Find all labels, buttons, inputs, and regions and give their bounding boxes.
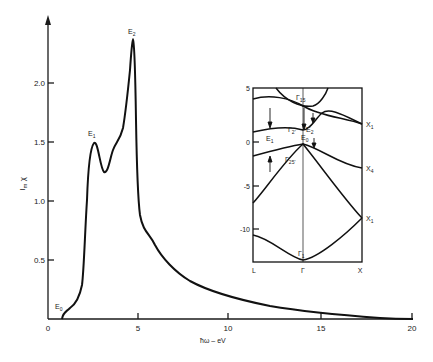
x-tick-10: 10 (224, 324, 233, 333)
inset-label-x1-top: X1 (366, 121, 374, 130)
y-tick-0.5: 0.5 (34, 256, 46, 265)
inset-x-tick-X: X (358, 267, 363, 274)
y-tick-labels: 0.5 1.0 1.5 2.0 (34, 79, 46, 265)
svg-text:Im χ: Im χ (18, 176, 28, 190)
peak-e1-label: E1 (88, 130, 96, 139)
x-tick-0: 0 (46, 324, 51, 333)
y-axis-arrow-icon (45, 15, 51, 25)
inset-x-tick-L: L (252, 267, 256, 274)
inset-x-tick-Gamma: Γ (301, 267, 305, 274)
x-tick-labels: 0 5 10 15 20 (46, 324, 417, 333)
y-axis-label: Im χ (18, 176, 28, 190)
inset-y-tick-5: 5 (246, 85, 250, 92)
y-tick-2.0: 2.0 (34, 79, 46, 88)
y-tick-1.0: 1.0 (34, 197, 46, 206)
x-axis-label: ħω – eV (200, 337, 226, 344)
x-tick-20: 20 (408, 324, 417, 333)
inset-label-x1-bottom: X1 (366, 215, 374, 224)
inset-label-x4: X4 (366, 165, 374, 174)
inset-y-tick-0: 0 (246, 139, 250, 146)
y-tick-1.5: 1.5 (34, 138, 46, 147)
peak-e2-label: E2 (128, 28, 136, 37)
band-structure-inset: 5 0 -5 -10 L Γ X (240, 85, 374, 274)
inset-y-tick-m5: -5 (244, 183, 250, 190)
x-tick-15: 15 (317, 324, 326, 333)
chart-canvas: 0 5 10 15 20 0.5 1.0 1.5 2.0 ħω – eV Im … (0, 0, 433, 362)
x-tick-5: 5 (136, 324, 141, 333)
inset-y-tick-m10: -10 (240, 226, 250, 233)
peak-e0-label: E0 (55, 303, 63, 312)
